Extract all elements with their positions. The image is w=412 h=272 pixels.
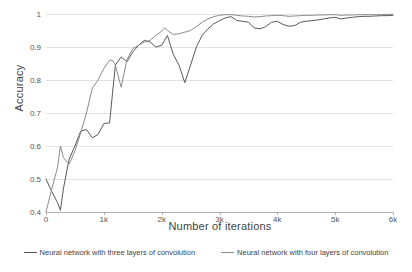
y-tick-label: 0.4 [30, 208, 41, 217]
chart-legend: Neural network with three layers of conv… [0, 248, 412, 257]
legend-line-swatch [24, 252, 37, 253]
legend-line-swatch [221, 252, 234, 253]
x-tick-mark [335, 212, 336, 215]
accuracy-vs-iterations-chart: Accuracy 0.40.50.60.70.80.91 01k2k3k4k5k… [0, 0, 412, 272]
series-line-four-layers [46, 14, 393, 212]
legend-item-label: Neural network with three layers of conv… [40, 248, 196, 257]
legend-item-four-layers[interactable]: Neural network with four layers of convo… [221, 248, 388, 257]
x-tick-mark [220, 212, 221, 215]
plot-area: 0.40.50.60.70.80.91 01k2k3k4k5k6k [46, 14, 393, 212]
x-tick-mark [104, 212, 105, 215]
x-axis-title: Number of iterations [46, 220, 394, 232]
series-lines [46, 14, 393, 212]
y-tick-label: 0.8 [30, 76, 41, 85]
legend-item-label: Neural network with four layers of convo… [237, 248, 388, 257]
y-axis-title: Accuracy [13, 43, 25, 133]
x-tick-mark [162, 212, 163, 215]
y-tick-label: 0.6 [30, 142, 41, 151]
y-tick-label: 0.7 [30, 109, 41, 118]
y-tick-label: 0.9 [30, 43, 41, 52]
x-tick-mark [393, 212, 394, 215]
y-tick-label: 0.5 [30, 175, 41, 184]
y-tick-label: 1 [37, 10, 41, 19]
x-tick-mark [277, 212, 278, 215]
series-line-three-layers [46, 15, 393, 210]
legend-item-three-layers[interactable]: Neural network with three layers of conv… [24, 248, 196, 257]
